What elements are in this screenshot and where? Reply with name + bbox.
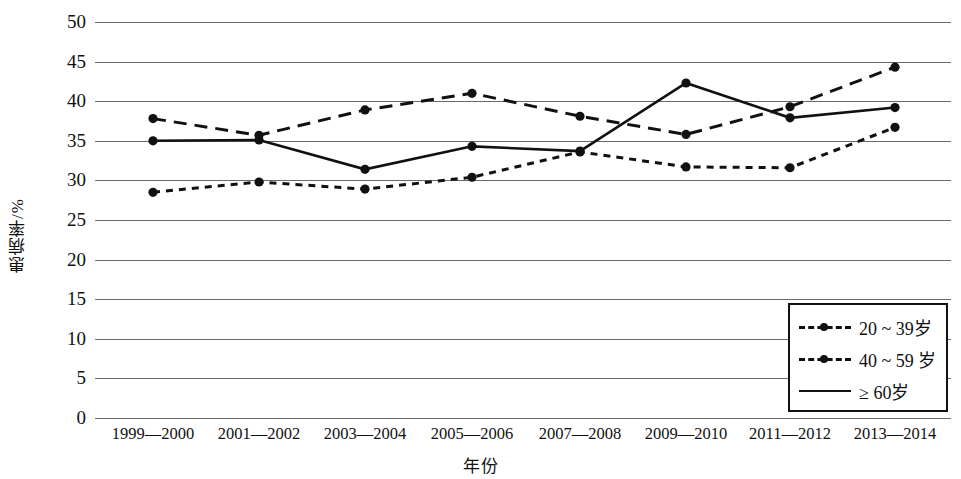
x-tick-label: 2011—2012 <box>749 424 831 444</box>
y-tick-label: 45 <box>34 51 86 73</box>
chart-page: 患病率/% 05101520253035404550 1999—20002001… <box>0 0 961 479</box>
series-line <box>153 83 895 169</box>
x-tick-label: 2003—2004 <box>324 424 407 444</box>
data-point <box>254 177 263 186</box>
data-point <box>360 185 369 194</box>
series-3 <box>148 78 899 174</box>
x-tick-label: 2013—2014 <box>854 424 937 444</box>
data-point <box>148 114 157 123</box>
legend-marker-icon <box>820 355 828 363</box>
data-point <box>148 136 157 145</box>
data-point <box>681 130 690 139</box>
y-tick-label: 0 <box>34 407 86 429</box>
x-tick-label: 2005—2006 <box>431 424 514 444</box>
y-tick-label: 5 <box>34 367 86 389</box>
data-point <box>467 142 476 151</box>
data-point <box>785 163 794 172</box>
legend-label: 40 ~ 59 岁 <box>851 346 936 372</box>
data-point <box>360 105 369 114</box>
data-point <box>575 147 584 156</box>
y-tick-label: 30 <box>34 169 86 191</box>
x-tick-label: 2009—2010 <box>645 424 728 444</box>
series-2 <box>148 63 899 140</box>
data-point <box>681 162 690 171</box>
data-point <box>575 112 584 121</box>
y-tick-label: 35 <box>34 130 86 152</box>
y-tick-label: 20 <box>34 249 86 271</box>
legend-line-sample <box>799 352 851 366</box>
y-axis-title: 患病率/% <box>2 170 32 300</box>
data-point <box>467 173 476 182</box>
y-tick-label: 15 <box>34 288 86 310</box>
series-line <box>153 127 895 192</box>
x-axis-title: 年份 <box>0 452 961 477</box>
series-line <box>153 67 895 135</box>
data-point <box>148 188 157 197</box>
legend-line-sample <box>799 384 851 398</box>
data-point <box>681 78 690 87</box>
legend-item: 20 ~ 39岁 <box>790 311 946 343</box>
legend-item: ≥ 60岁 <box>790 375 946 407</box>
y-axis-title-text: 患病率/% <box>5 198 30 273</box>
y-tick-label: 10 <box>34 328 86 350</box>
x-tick-label: 2001—2002 <box>218 424 301 444</box>
legend-label: ≥ 60岁 <box>851 378 909 404</box>
data-point <box>890 63 899 72</box>
data-point <box>890 123 899 132</box>
data-point <box>254 135 263 144</box>
data-point <box>467 89 476 98</box>
y-tick-label: 50 <box>34 11 86 33</box>
data-point <box>360 165 369 174</box>
y-tick-label: 40 <box>34 90 86 112</box>
data-point <box>785 102 794 111</box>
x-axis-title-text: 年份 <box>463 457 499 476</box>
x-tick-label: 1999—2000 <box>112 424 195 444</box>
legend-item: 40 ~ 59 岁 <box>790 343 946 375</box>
legend-marker-icon <box>820 323 828 331</box>
legend-label: 20 ~ 39岁 <box>851 314 932 340</box>
x-tick-label: 2007—2008 <box>539 424 622 444</box>
data-point <box>890 103 899 112</box>
chart-legend: 20 ~ 39岁40 ~ 59 岁≥ 60岁 <box>788 303 948 412</box>
data-point <box>785 113 794 122</box>
legend-line-sample <box>799 320 851 334</box>
y-tick-label: 25 <box>34 209 86 231</box>
